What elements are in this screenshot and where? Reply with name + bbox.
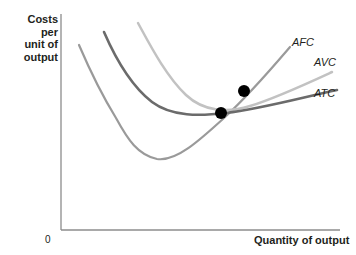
afc-curve-label: AFC [292,36,314,48]
marker-afc-crosses-atc [215,107,227,119]
avc-curve-label: AVC [314,56,336,68]
marker-afc-crosses-avc [238,85,250,97]
intersection-markers [215,85,250,119]
x-axis-label: Quantity of output [254,234,349,246]
atc-curve-label: ATC [314,87,335,99]
cost-curves-figure: Costs per unit of output AFC AVC ATC 0 Q… [0,0,356,255]
origin-label: 0 [45,234,51,245]
